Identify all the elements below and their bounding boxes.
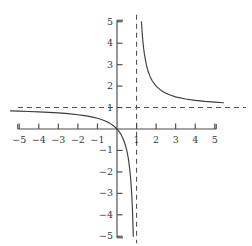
y-tick-label--5: −5 [99,230,113,241]
x-tick-label-2: 2 [153,134,159,145]
x-tick-label--2: −2 [71,134,85,145]
y-tick-label--1: −1 [99,144,113,155]
y-tick-label--3: −3 [99,187,113,198]
x-tick-label-1: 1 [134,134,140,145]
x-tick-label--4: −4 [32,134,46,145]
chart-figure: −5−4−3−2−112345−5−4−3−2−112345 [0,0,252,246]
x-tick-label-5: 5 [212,134,218,145]
y-tick-label-2: 2 [107,80,113,91]
y-tick-label--4: −4 [99,209,113,220]
y-tick-label-1: 1 [107,102,113,113]
x-tick-label-3: 3 [173,134,179,145]
y-tick-label-3: 3 [107,59,113,70]
x-tick-label--5: −5 [12,134,26,145]
y-tick-label-4: 4 [107,37,113,48]
y-tick-label--2: −2 [99,166,113,177]
rational-function-plot: −5−4−3−2−112345−5−4−3−2−112345 [0,0,252,246]
x-tick-label--3: −3 [51,134,65,145]
chart-background [0,0,252,246]
y-tick-label-5: 5 [107,16,113,27]
x-tick-label-4: 4 [192,134,198,145]
